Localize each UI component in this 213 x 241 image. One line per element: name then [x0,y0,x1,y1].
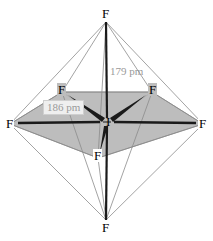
atom-label-f-left: F [5,117,14,130]
atom-label-i-center: I [105,115,111,128]
atom-label-f-upper-right: F [148,83,157,96]
atom-label-f-bottom: F [101,221,110,234]
measure-label-equatorial-bond: 186 pm [43,100,84,115]
atom-label-f-top: F [101,7,110,20]
atom-label-f-upper-left: F [57,83,66,96]
atom-label-f-lower-front: F [93,149,102,162]
atom-label-f-right: F [198,117,207,130]
molecular-structure-diagram: F F F F F F F I 179 pm 186 pm [0,0,213,241]
measure-label-axial-bond: 179 pm [108,66,145,77]
